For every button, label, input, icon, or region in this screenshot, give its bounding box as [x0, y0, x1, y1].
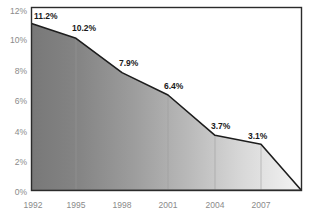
y-tick-label: 12%: [10, 6, 27, 16]
data-label-2001: 6.4%: [164, 81, 184, 91]
y-tick-label: 10%: [10, 35, 27, 45]
y-tick-label: 8%: [15, 66, 28, 76]
x-tick-label: 2001: [159, 200, 178, 210]
x-tick-label: 1998: [113, 200, 132, 210]
y-tick-label: 6%: [15, 96, 28, 106]
data-label-1998: 7.9%: [119, 58, 139, 68]
x-tick-label: 2007: [252, 200, 271, 210]
y-tick-label: 0%: [15, 187, 28, 197]
y-axis-ticks: 12% 10% 8% 6% 4% 2% 0%: [10, 6, 27, 197]
y-tick-label: 4%: [15, 127, 28, 137]
area-chart: 12% 10% 8% 6% 4% 2% 0% 1992 1995 1998 20…: [0, 0, 313, 220]
x-tick-label: 1995: [67, 200, 86, 210]
chart-container: 12% 10% 8% 6% 4% 2% 0% 1992 1995 1998 20…: [0, 0, 313, 220]
x-axis-ticks: 1992 1995 1998 2001 2004 2007: [24, 200, 271, 210]
x-tick-label: 2004: [206, 200, 225, 210]
y-tick-label: 2%: [15, 157, 28, 167]
data-label-1995: 10.2%: [72, 23, 97, 33]
x-tick-label: 1992: [24, 200, 43, 210]
data-label-2007: 3.1%: [248, 131, 268, 141]
data-label-2004: 3.7%: [211, 121, 231, 131]
data-label-1992: 11.2%: [34, 11, 58, 21]
